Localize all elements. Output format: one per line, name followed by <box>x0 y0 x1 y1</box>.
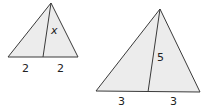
small-left-segment-label: 2 <box>22 62 29 75</box>
large-left-segment-label: 3 <box>118 95 125 108</box>
small-median-label: x <box>50 24 58 37</box>
similar-triangles-figure: x 2 2 5 3 3 <box>0 0 207 109</box>
small-triangle: x 2 2 <box>8 3 78 75</box>
large-triangle: 5 3 3 <box>96 9 200 108</box>
large-right-segment-label: 3 <box>170 95 177 108</box>
large-median-label: 5 <box>157 51 164 64</box>
large-triangle-shape <box>96 9 200 92</box>
small-right-segment-label: 2 <box>57 62 64 75</box>
figure-canvas: x 2 2 5 3 3 <box>0 0 207 109</box>
small-triangle-shape <box>8 3 78 57</box>
